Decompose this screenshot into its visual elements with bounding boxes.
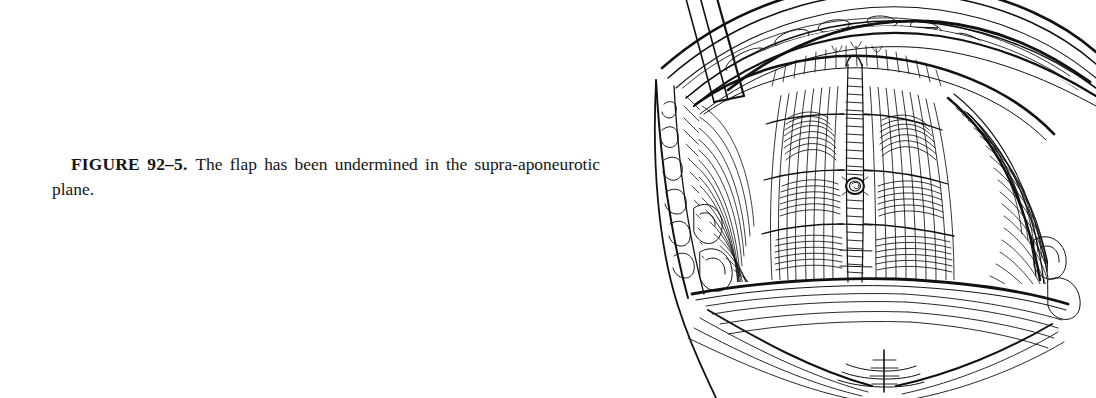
- figure-caption: FIGURE 92–5.The flap has been undermined…: [52, 152, 600, 202]
- retractor-instrument[interactable]: [682, 0, 744, 102]
- tendinous-inscriptions-left: [762, 114, 844, 234]
- lower-transverse-incision: [692, 279, 1068, 310]
- abdominoplasty-flap-undermining-illustration: [596, 0, 1096, 398]
- illustration-canvas: [596, 0, 1096, 398]
- umbilicus: [842, 177, 868, 195]
- external-oblique-aponeurosis-left: [694, 106, 757, 296]
- rectus-abdominis-right: [864, 86, 954, 280]
- linea-alba: [838, 56, 872, 283]
- flank-contour-left: [655, 82, 716, 398]
- lower-abdomen-mons: [688, 294, 1064, 398]
- rectus-abdominis-left: [762, 86, 844, 280]
- figure-label: FIGURE 92–5.: [71, 154, 187, 174]
